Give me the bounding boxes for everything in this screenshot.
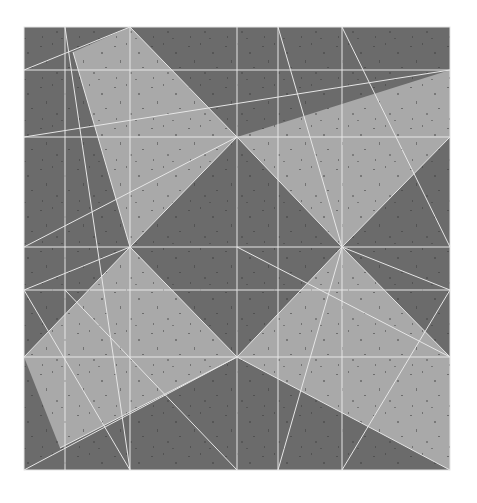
geometric-print-artwork (0, 0, 477, 503)
